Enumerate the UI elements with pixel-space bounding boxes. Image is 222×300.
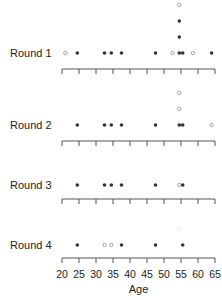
data-point-open: [178, 3, 181, 6]
x-tick-label: 60: [192, 268, 204, 280]
data-point-filled: [181, 123, 185, 127]
data-point-open: [210, 123, 213, 126]
data-point-filled: [76, 51, 80, 55]
data-point-filled: [178, 35, 182, 39]
data-point-filled: [76, 183, 80, 187]
data-point-filled: [210, 51, 214, 55]
data-point-filled: [76, 123, 80, 127]
x-axis: [62, 69, 215, 74]
data-point-open: [178, 183, 181, 186]
data-point-filled: [178, 51, 182, 55]
data-point-filled: [110, 183, 114, 187]
x-axis: [62, 141, 215, 146]
data-point-filled: [181, 183, 185, 187]
data-point-open: [64, 51, 67, 54]
data-point-filled: [154, 243, 158, 247]
data-point-open: [110, 243, 113, 246]
data-point-filled: [103, 123, 107, 127]
x-tick-label: 65: [209, 268, 221, 280]
data-point-faint: [178, 227, 181, 230]
x-tick-label: 55: [175, 268, 187, 280]
data-point-open: [171, 51, 174, 54]
data-point-filled: [154, 51, 158, 55]
data-point-open: [191, 51, 194, 54]
data-point-filled: [120, 51, 124, 55]
x-tick-label: 40: [124, 268, 136, 280]
x-tick-label: 35: [107, 268, 119, 280]
data-point-filled: [103, 51, 107, 55]
x-tick-label: 20: [56, 268, 68, 280]
data-point-filled: [103, 183, 107, 187]
x-tick-label: 45: [141, 268, 153, 280]
x-axis-title: Age: [129, 283, 149, 295]
data-point-filled: [120, 183, 124, 187]
round-panel-4: Round 4: [10, 227, 215, 263]
data-point-open: [178, 91, 181, 94]
data-point-filled: [178, 19, 182, 23]
round-label: Round 1: [10, 47, 52, 59]
round-label: Round 4: [10, 239, 52, 251]
round-panel-2: Round 2: [10, 91, 215, 146]
data-point-filled: [76, 243, 80, 247]
dot-plot-chart: Round 1Round 2Round 3Round 4 20253035404…: [0, 0, 222, 300]
round-panel-1: Round 1: [10, 3, 215, 74]
data-point-open: [103, 243, 106, 246]
round-label: Round 3: [10, 179, 52, 191]
data-point-filled: [181, 243, 185, 247]
data-point-open: [178, 107, 181, 110]
round-panel-3: Round 3: [10, 179, 215, 204]
data-point-filled: [181, 51, 185, 55]
x-axis: [62, 199, 215, 204]
data-point-filled: [178, 123, 182, 127]
data-point-filled: [110, 51, 114, 55]
data-point-filled: [110, 123, 114, 127]
data-point-filled: [154, 183, 158, 187]
data-point-filled: [120, 123, 124, 127]
x-axis: [62, 258, 215, 263]
round-label: Round 2: [10, 119, 52, 131]
rounds-layer: Round 1Round 2Round 3Round 4: [10, 3, 215, 263]
x-tick-label: 50: [158, 268, 170, 280]
x-tick-label: 30: [90, 268, 102, 280]
data-point-filled: [154, 123, 158, 127]
x-axis-tick-labels: 20253035404550556065: [56, 268, 221, 280]
x-tick-label: 25: [73, 268, 85, 280]
data-point-filled: [120, 243, 124, 247]
